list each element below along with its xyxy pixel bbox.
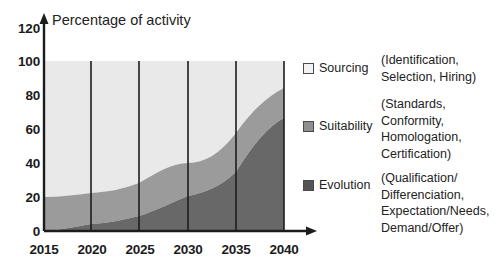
x-tick-2035: 2035 [209, 243, 263, 257]
y-tick-40: 40 [6, 157, 40, 171]
legend-description-suitability: (Standards, Conformity, Homologation, Ce… [381, 96, 462, 162]
x-tick-2015: 2015 [17, 243, 71, 257]
legend-swatch-sourcing-icon [303, 63, 314, 74]
legend-item-sourcing: Sourcing (Identification, Selection, Hir… [303, 52, 476, 85]
y-tick-60: 60 [6, 123, 40, 137]
y-tick-20: 20 [6, 191, 40, 205]
legend-swatch-suitability-icon [303, 121, 314, 132]
x-axis-tick-labels: 2015 2020 2025 2030 2035 2040 [44, 243, 314, 265]
legend-label-evolution: Evolution [319, 178, 370, 192]
legend-key-suitability: Suitability [303, 119, 381, 133]
legend-key-sourcing: Sourcing [303, 61, 381, 75]
legend-item-suitability: Suitability (Standards, Conformity, Homo… [303, 96, 462, 162]
y-tick-0: 0 [6, 225, 40, 239]
legend-description-sourcing: (Identification, Selection, Hiring) [381, 52, 476, 85]
legend-label-sourcing: Sourcing [319, 61, 368, 75]
y-axis-arrow-icon [40, 13, 49, 24]
axis-title: Percentage of activity [52, 13, 191, 29]
legend-swatch-evolution-icon [303, 180, 314, 191]
y-tick-80: 80 [6, 89, 40, 103]
legend-label-suitability: Suitability [319, 119, 373, 133]
y-axis-tick-labels: 120 100 80 60 40 20 0 [0, 0, 40, 271]
x-tick-2030: 2030 [161, 243, 215, 257]
legend-item-evolution: Evolution (Qualification/ Differenciatio… [303, 170, 489, 236]
legend-key-evolution: Evolution [303, 178, 381, 192]
y-tick-120: 120 [6, 22, 40, 36]
y-tick-100: 100 [6, 55, 40, 69]
x-tick-2040: 2040 [257, 243, 311, 257]
x-tick-2025: 2025 [113, 243, 167, 257]
legend-description-evolution: (Qualification/ Differenciation, Expecta… [381, 170, 489, 236]
x-tick-2020: 2020 [65, 243, 119, 257]
stacked-area-chart: Percentage of activity 120 100 80 60 40 … [0, 0, 500, 271]
